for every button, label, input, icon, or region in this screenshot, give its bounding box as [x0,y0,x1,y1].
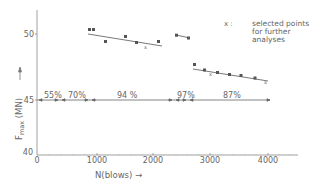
y-tick-50: 50 [24,30,34,39]
svg-text:x: x [264,79,267,85]
cluster-2: x x [193,64,268,86]
legend-line-3: analyses [252,35,285,44]
y-axis [35,10,37,155]
x-tick-3000: 3000 [200,156,220,165]
x-tick-2000: 2000 [143,156,163,165]
svg-text:x: x [144,44,147,50]
y-tick-45: 45 [24,96,34,105]
legend: x : selected points for further analyses [224,19,309,44]
y-axis-arrow-icon [19,67,22,80]
x-tick-1000: 1000 [87,156,107,165]
svg-text:x: x [209,71,212,77]
y-tick-40: 40 [23,148,33,157]
pct-97: 97% [177,91,195,100]
pct-87: 87% [223,91,241,100]
pct-94: 94 % [117,91,138,100]
x-tick-4000: 4000 [258,156,278,165]
pct-55: 55% [44,91,62,100]
cluster-1: x [88,29,190,51]
x-tick-0: 0 [34,156,39,165]
chart: 50 45 40 0 1000 2000 3000 4000 N(blows) … [0,0,324,186]
legend-marker: x : [224,20,233,28]
x-axis [37,153,298,155]
x-axis-label: N(blows) → [95,170,142,180]
pct-70: 70% [68,91,86,100]
